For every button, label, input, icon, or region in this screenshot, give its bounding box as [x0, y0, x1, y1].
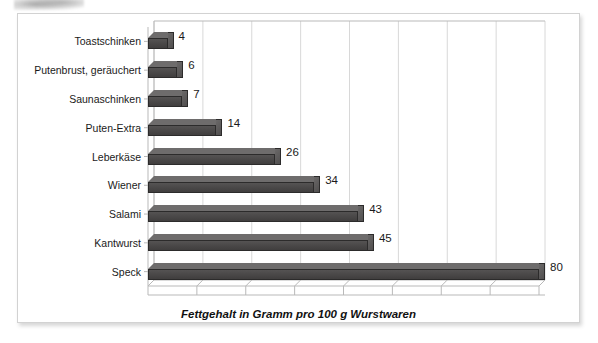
bar-value-label: 43 [369, 204, 382, 216]
plot-area: ToastschinkenPutenbrust, geräuchertSauna… [18, 14, 581, 324]
floor-line-60 [441, 280, 447, 286]
floor-line-50 [392, 280, 398, 286]
bar-front-face [148, 269, 539, 280]
bar-value-label: 14 [227, 118, 240, 130]
bar-side-face [182, 90, 188, 107]
scan-artifact [14, 0, 84, 10]
bar-front-face [148, 154, 275, 165]
bar [148, 32, 174, 50]
bar [148, 61, 183, 79]
bar-front-face [148, 38, 168, 49]
floor-line-80 [539, 280, 545, 286]
bar [148, 148, 281, 166]
bar [148, 90, 188, 108]
bar-side-face [177, 61, 183, 78]
category-label: Kantwurst [94, 238, 141, 249]
bar-side-face [314, 176, 320, 193]
floor-line-70 [490, 280, 496, 286]
bar-value-label: 6 [188, 60, 194, 72]
bar [148, 119, 222, 137]
bar-side-face [368, 234, 374, 251]
bar-front-face [148, 211, 358, 222]
floor-line-10 [197, 280, 203, 286]
bar-side-face [168, 32, 174, 49]
bar-value-label: 26 [286, 147, 299, 159]
category-label: Leberkäse [92, 152, 141, 163]
bar-value-label: 45 [379, 233, 392, 245]
bar-value-label: 4 [179, 31, 185, 43]
bar-side-face [216, 119, 222, 136]
category-label: Puten-Extra [86, 123, 141, 134]
bar [148, 205, 364, 223]
category-label: Putenbrust, geräuchert [34, 65, 141, 76]
bar-front-face [148, 67, 177, 78]
floor-line-30 [295, 280, 301, 286]
bar-side-face [539, 263, 545, 280]
category-label: Salami [109, 209, 141, 220]
category-label: Speck [112, 267, 141, 278]
bar [148, 176, 320, 194]
floor-line-20 [246, 280, 252, 286]
bar [148, 234, 374, 252]
x-axis-caption: Fettgehalt in Gramm pro 100 g Wurstwaren [18, 308, 579, 320]
bar [148, 263, 545, 281]
bar-front-face [148, 182, 314, 193]
bar-front-face [148, 96, 182, 107]
floor-line-0 [148, 280, 154, 286]
bar-value-label: 34 [325, 175, 338, 187]
floor-line-40 [344, 280, 350, 286]
bar-value-label: 7 [193, 89, 199, 101]
bar-side-face [358, 205, 364, 222]
chart-panel: ToastschinkenPutenbrust, geräuchertSauna… [17, 13, 580, 323]
category-label: Toastschinken [74, 36, 141, 47]
bar-value-label: 80 [550, 262, 563, 274]
bar-front-face [148, 125, 216, 136]
bar-side-face [275, 148, 281, 165]
category-label: Saunaschinken [69, 94, 141, 105]
bar-front-face [148, 240, 368, 251]
category-label: Wiener [108, 180, 141, 191]
